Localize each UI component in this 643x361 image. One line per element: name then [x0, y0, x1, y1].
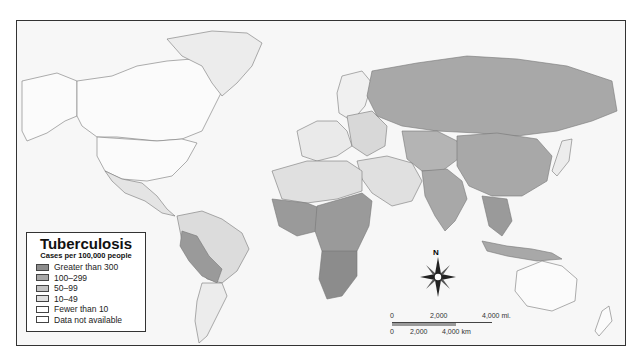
region-southern-cone [195, 283, 227, 343]
region-new-zealand [595, 306, 612, 336]
region-japan [552, 139, 572, 176]
legend-title: Tuberculosis [32, 236, 140, 251]
scale-mi-2000: 2,000 [430, 312, 448, 319]
region-alaska [22, 73, 77, 141]
region-canada [77, 59, 222, 141]
legend-item: Greater than 300 [36, 262, 140, 273]
region-china-mongolia [457, 133, 552, 196]
scale-km-0: 0 [390, 328, 394, 335]
region-south-asia [422, 169, 467, 231]
legend-swatch [36, 316, 49, 323]
legend-item: 10–49 [36, 294, 140, 305]
scale-km-4000: 4,000 km [442, 328, 471, 335]
legend-item: 100–299 [36, 273, 140, 284]
legend-swatch [36, 274, 49, 281]
legend-swatch [36, 264, 49, 271]
legend-subtitle: Cases per 100,000 people [32, 251, 140, 260]
compass-north-label: N [433, 248, 439, 257]
region-australia [515, 261, 577, 311]
legend: Tuberculosis Cases per 100,000 people Gr… [26, 232, 146, 332]
region-western-europe [297, 121, 352, 161]
region-indonesia [482, 241, 562, 261]
legend-item: 50–99 [36, 283, 140, 294]
legend-swatch [36, 285, 49, 292]
legend-item: Fewer than 10 [36, 304, 140, 315]
compass-rose-icon: N [420, 248, 456, 296]
legend-item: Data not available [36, 315, 140, 326]
scale-mi-0: 0 [390, 312, 394, 319]
scale-km-2000: 2,000 [410, 328, 428, 335]
region-southeast-asia [482, 196, 512, 236]
scale-line-km [392, 323, 456, 326]
legend-swatch [36, 295, 49, 302]
scale-mi-4000: 4,000 mi. [482, 312, 511, 319]
scale-bar: 0 2,000 4,000 mi. 0 2,000 4,000 km [388, 312, 528, 342]
legend-swatch [36, 306, 49, 313]
region-russia [367, 56, 617, 136]
region-southern-africa [319, 251, 357, 299]
